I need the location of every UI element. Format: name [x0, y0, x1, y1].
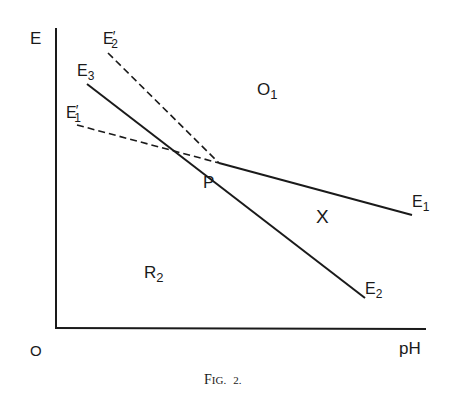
svg-text:R2: R2 [144, 263, 164, 285]
potential-ph-diagram: E O pH E′2 E3 E′1 E1 E2 P O1 R2 X FIG.2. [0, 0, 452, 399]
label-e3: E3 [77, 62, 95, 83]
y-axis-label: E [30, 29, 41, 48]
region-r2-label: R2 [144, 263, 164, 285]
origin-label: O [30, 342, 42, 359]
region-o1-label: O1 [257, 80, 277, 102]
label-e1-prime: E′1 [66, 102, 81, 125]
region-x-label: X [316, 206, 329, 227]
x-axis [55, 328, 426, 329]
figure-caption: FIG.2. [204, 372, 242, 387]
svg-text:E1: E1 [412, 193, 430, 214]
label-e1: E1 [412, 193, 430, 214]
line-e2-prime [108, 53, 219, 163]
label-e2: E2 [365, 280, 383, 301]
label-e2-prime: E′2 [103, 28, 118, 51]
svg-text:O1: O1 [257, 80, 277, 102]
svg-text:E3: E3 [77, 62, 95, 83]
point-p-label: P [203, 173, 214, 192]
x-axis-label: pH [399, 339, 421, 358]
svg-text:E2: E2 [365, 280, 383, 301]
svg-text:E′1: E′1 [66, 102, 81, 125]
svg-text:FIG.2.: FIG.2. [204, 372, 242, 387]
svg-text:E′2: E′2 [103, 28, 118, 51]
